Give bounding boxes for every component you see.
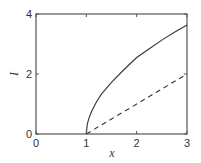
- x-tick-label: 0: [33, 137, 39, 149]
- y-tick-label: 2: [26, 68, 32, 80]
- series-layer: [86, 25, 187, 134]
- series-solid-line: [86, 25, 187, 134]
- y-tick-label: 4: [26, 8, 32, 20]
- ticks-layer: 0123024: [26, 8, 190, 149]
- series-dashed-line: [86, 74, 187, 134]
- chart: 0123024 x I: [0, 0, 201, 163]
- x-tick-label: 3: [184, 137, 190, 149]
- y-tick-label: 0: [26, 128, 32, 140]
- x-axis-label: x: [108, 146, 115, 160]
- plot-area: [36, 14, 187, 134]
- x-tick-label: 1: [83, 137, 89, 149]
- plot-frame: [36, 14, 187, 134]
- x-tick-label: 2: [134, 137, 140, 149]
- y-axis-label: I: [7, 71, 21, 77]
